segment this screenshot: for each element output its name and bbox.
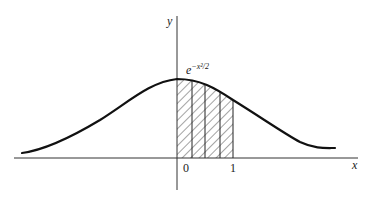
x-axis-label: x [352, 158, 357, 173]
tick-label-1: 1 [230, 161, 236, 176]
y-axis-label: y [167, 14, 172, 29]
tick-label-0: 0 [183, 161, 189, 176]
curve-label: e−x²/2 [186, 62, 209, 78]
gaussian-figure [0, 0, 371, 208]
curve-label-exponent: −x²/2 [191, 62, 209, 71]
